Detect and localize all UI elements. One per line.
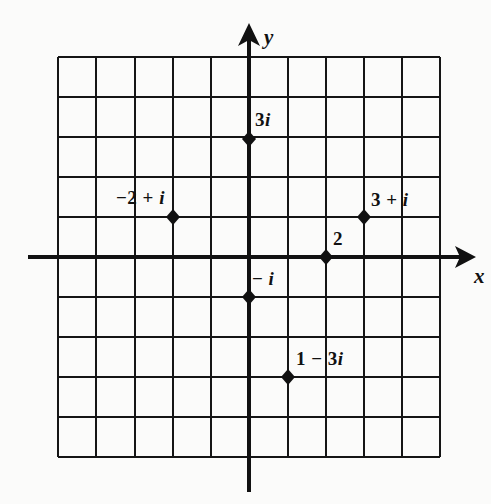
point-label-minus-two-plus-i: −2 + i	[116, 188, 165, 207]
point-marker-minusi	[242, 289, 256, 305]
point-marker-2	[319, 249, 333, 265]
point-label-three-plus-i: 3 + i	[371, 190, 409, 209]
point-marker-1minus3i	[281, 369, 295, 385]
point-label-minus-i: − i	[252, 269, 274, 288]
coordinate-plane-svg	[0, 0, 491, 504]
complex-plane-figure: y x 3i −2 + i 3 + i 2 − i 1 − 3i	[0, 0, 491, 504]
point-marker-3i	[242, 131, 256, 147]
point-marker-3plusi	[357, 209, 371, 225]
x-axis-label: x	[474, 266, 485, 287]
point-label-two: 2	[333, 229, 343, 248]
point-marker-minus2plusi	[166, 209, 180, 225]
y-axis-label: y	[264, 27, 273, 48]
point-label-one-minus-three-i: 1 − 3i	[296, 349, 344, 368]
point-label-3i: 3i	[255, 110, 271, 129]
